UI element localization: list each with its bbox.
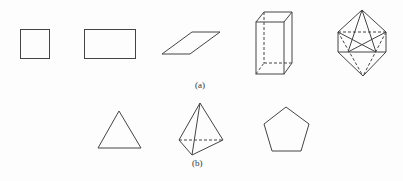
part-b-label: (b)	[192, 158, 203, 168]
pentagon-shape	[264, 107, 309, 151]
parallelogram-shape	[162, 32, 220, 54]
tetrahedron-shape	[179, 103, 223, 155]
part-a-label: (a)	[195, 80, 205, 90]
geometry-figure	[0, 0, 403, 181]
figure-canvas: (a) (b)	[0, 0, 403, 181]
octahedron-shape	[338, 10, 386, 76]
triangle-shape	[98, 111, 141, 148]
square-shape	[21, 30, 50, 59]
rectangular-prism-shape	[256, 12, 292, 74]
rectangle-shape	[85, 30, 136, 59]
